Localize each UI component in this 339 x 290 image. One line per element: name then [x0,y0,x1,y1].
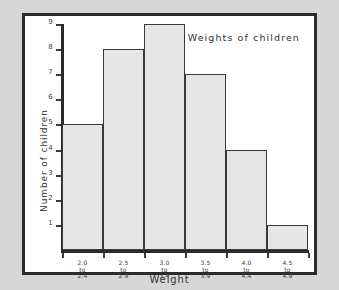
y-axis-tick: 6 [56,99,61,101]
x-axis-tick [103,253,105,258]
y-axis-tick: 7 [56,74,61,76]
x-axis-tick [308,253,310,258]
x-axis-tick [62,253,64,258]
page-background: Weights of children Number of children 9… [0,0,339,290]
histogram-bar [144,24,185,250]
y-axis-tick: 5 [56,124,61,126]
x-axis-title: Weight [25,274,314,285]
x-axis-tick [185,253,187,258]
y-axis-tick-label: 1 [48,219,53,227]
y-axis-tick-label: 6 [48,93,53,101]
y-axis-tick: 3 [56,175,61,177]
y-axis-tick-label: 5 [48,118,53,126]
y-axis-tick-label: 9 [48,18,53,26]
chart-card: Weights of children Number of children 9… [22,13,317,275]
y-axis-tick: 2 [56,200,61,202]
histogram-bar [226,150,267,250]
y-axis-tick: 1 [56,225,61,227]
y-axis-tick: 8 [56,49,61,51]
plot-area: 9 8 7 6 5 4 3 2 1 [61,24,309,253]
histogram-bar [62,124,103,250]
y-axis-tick-label: 4 [48,144,53,152]
y-axis-tick-label: 8 [48,43,53,51]
histogram-bar [267,225,308,250]
x-axis-tick [144,253,146,258]
y-axis-tick-label: 2 [48,194,53,202]
y-axis-tick-label: 3 [48,169,53,177]
y-axis-tick: 4 [56,150,61,152]
y-axis-tick: 9 [56,24,61,26]
x-axis-tick [267,253,269,258]
x-axis-tick [226,253,228,258]
histogram-bar [185,74,226,250]
y-axis-tick-label: 7 [48,68,53,76]
histogram-bar [103,49,144,250]
